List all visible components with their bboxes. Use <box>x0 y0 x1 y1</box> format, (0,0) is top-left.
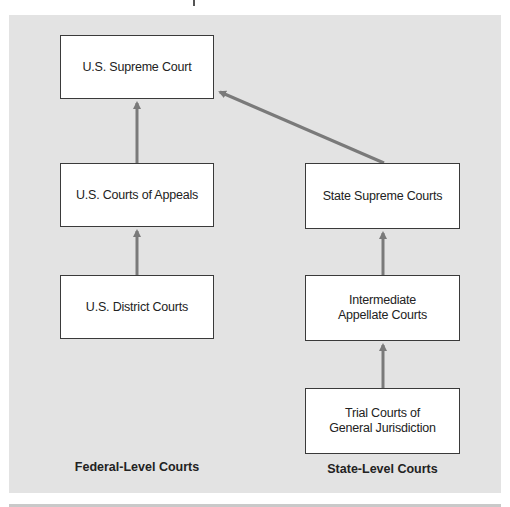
column-label-state: State-Level Courts <box>305 462 460 476</box>
node-label-line1: Intermediate <box>349 293 416 307</box>
node-intermediate-appellate-courts: Intermediate Appellate Courts <box>305 275 460 341</box>
node-label: Intermediate Appellate Courts <box>338 293 427 323</box>
node-label: U.S. Supreme Court <box>83 60 192 75</box>
node-label: U.S. Courts of Appeals <box>76 188 198 203</box>
node-us-supreme-court: U.S. Supreme Court <box>60 35 214 99</box>
arrow-state-supreme-to-us-supreme <box>220 92 384 163</box>
node-us-district-courts: U.S. District Courts <box>60 275 214 339</box>
node-label-line2: Appellate Courts <box>338 308 427 322</box>
node-label: U.S. District Courts <box>86 300 188 315</box>
node-label: State Supreme Courts <box>323 189 443 204</box>
node-label-line1: Trial Courts of <box>345 406 420 420</box>
node-label-line2: General Jurisdiction <box>329 421 435 435</box>
node-trial-courts-general-jurisdiction: Trial Courts of General Jurisdiction <box>305 388 460 454</box>
node-us-courts-of-appeals: U.S. Courts of Appeals <box>60 163 214 227</box>
column-label-federal: Federal-Level Courts <box>60 460 214 474</box>
node-state-supreme-courts: State Supreme Courts <box>305 163 460 229</box>
node-label: Trial Courts of General Jurisdiction <box>329 406 435 436</box>
